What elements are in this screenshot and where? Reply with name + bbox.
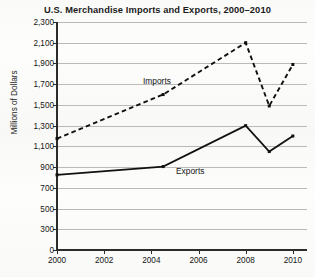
- data-point-marker: [162, 165, 165, 168]
- y-tick-label: 300: [18, 225, 54, 234]
- y-tick-label: 2,300: [18, 18, 54, 27]
- y-tick-label: 500: [18, 204, 54, 213]
- chart-page: U.S. Merchandise Imports and Exports, 20…: [0, 0, 315, 277]
- y-tick-label: 1,100: [18, 142, 54, 151]
- y-axis-tick-labels: 2,3002,1001,9001,7001,5001,3001,10090070…: [18, 22, 54, 250]
- series-layer: [57, 22, 307, 250]
- series-line-imports: [57, 43, 293, 139]
- y-tick-label: 1,500: [18, 100, 54, 109]
- plot-area: Imports Exports: [57, 22, 307, 250]
- series-label-imports: Imports: [143, 76, 171, 86]
- y-tick-label: 1,700: [18, 80, 54, 89]
- y-tick-mark: [53, 250, 58, 251]
- x-tick-label: 2010: [273, 256, 313, 265]
- y-tick-label: 2,100: [18, 38, 54, 47]
- x-tick-label: 2008: [226, 256, 266, 265]
- data-point-marker: [56, 137, 59, 140]
- y-tick-label: 900: [18, 163, 54, 172]
- x-tick-label: 2004: [131, 256, 171, 265]
- series-label-exports: Exports: [176, 166, 204, 176]
- y-tick-label: 700: [18, 183, 54, 192]
- x-tick-label: 2002: [84, 256, 124, 265]
- data-point-marker: [56, 173, 59, 176]
- data-point-marker: [291, 63, 294, 66]
- x-axis-tick-labels: 200020022004200620082010: [57, 250, 307, 272]
- data-point-marker: [244, 124, 247, 127]
- y-tick-label: 1,300: [18, 121, 54, 130]
- page-title: U.S. Merchandise Imports and Exports, 20…: [0, 5, 315, 15]
- data-point-marker: [268, 150, 271, 153]
- data-point-marker: [268, 104, 271, 107]
- y-tick-label: 0: [18, 246, 54, 255]
- series-line-exports: [57, 126, 293, 175]
- x-tick-label: 2006: [179, 256, 219, 265]
- gridline: [57, 250, 307, 251]
- data-point-marker: [291, 135, 294, 138]
- y-tick-label: 1,900: [18, 59, 54, 68]
- data-point-marker: [244, 41, 247, 44]
- data-point-marker: [162, 93, 165, 96]
- x-tick-label: 2000: [37, 256, 77, 265]
